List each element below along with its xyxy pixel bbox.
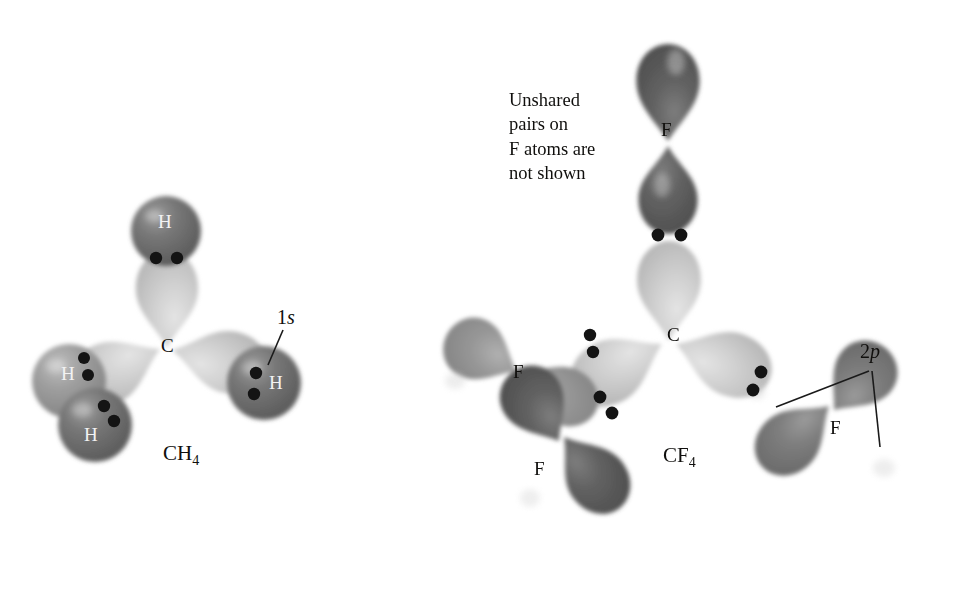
electron-dot [250,367,262,379]
atom-label-h-lower-left-back: H [61,364,75,383]
formula-cf4-main: CF [663,443,689,467]
electron-dot [587,346,599,358]
formula-label-cf4: CF4 [663,445,696,470]
formula-ch4-main: CH [163,441,192,465]
electron-dot [150,252,162,264]
formula-label-ch4: CH4 [163,443,199,468]
electron-dot [747,384,760,397]
orbital-callout-1s: 1s [277,307,295,327]
formula-ch4-sub: 4 [192,453,199,468]
atom-label-h-right: H [269,373,283,392]
atom-label-f-bottom-left: F [534,459,545,478]
atom-label-f-top: F [661,120,672,139]
atom-label-h-lower-left-front: H [84,425,98,444]
electron-dot [98,400,110,412]
atom-label-h-top: H [158,212,172,231]
orbital-overlap-figure: Unshared pairs on F atoms are not shown … [0,0,972,606]
electron-dot [82,369,94,381]
electron-dot [594,391,607,404]
atom-label-f-left: F [513,362,524,381]
atom-label-c-ch4: C [161,336,174,355]
atom-label-f-right: F [830,418,841,437]
electron-dot [652,229,665,242]
orbital-diagram-canvas [0,0,972,606]
formula-cf4-sub: 4 [689,455,696,470]
ch4-molecule [32,196,301,462]
electron-dot [171,252,183,264]
hydrogen-1s-sphere-right [227,346,301,420]
orbital-callout-2p: 2p [860,341,880,361]
electron-dot [248,388,260,400]
orbital-callout-1s-prefix: 1 [277,306,287,328]
electron-dot [755,366,768,379]
atom-label-c-cf4: C [667,325,680,344]
unshared-pairs-note: Unshared pairs on F atoms are not shown [509,88,595,186]
electron-dot [108,415,120,427]
orbital-callout-2p-prefix: 2 [860,340,870,362]
electron-dot [675,229,688,242]
electron-dot [584,329,596,341]
orbital-callout-1s-italic: s [287,306,295,328]
orbital-callout-2p-italic: p [870,340,880,362]
electron-dot [78,352,90,364]
electron-dot [606,407,619,420]
